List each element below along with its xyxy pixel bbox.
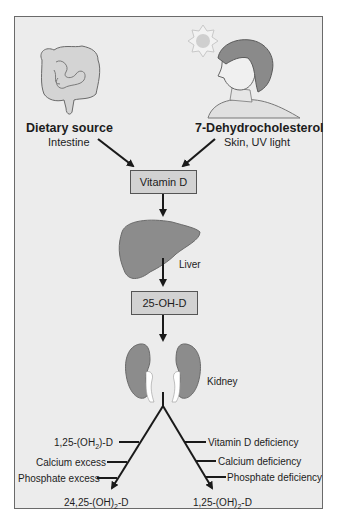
node-vitamin-d: Vitamin D: [130, 170, 197, 194]
factor-phosphate-deficiency: Phosphate deficiency: [227, 471, 322, 484]
factor-calcium-excess: Calcium excess: [36, 456, 106, 469]
factor-text: 1,25-(OH: [54, 437, 95, 448]
factor-phosphate-excess: Phosphate excess: [18, 472, 100, 485]
factor-1-25-oh2-d: 1,25-(OH2)-D: [54, 436, 113, 449]
node-25-oh-d: 25-OH-D: [131, 291, 198, 315]
person-icon: [208, 40, 300, 118]
factor-tail: )-D: [99, 437, 113, 448]
product-1-25-oh2-d: 1,25-(OH)2-D: [193, 496, 252, 509]
source-title-dietary: Dietary source: [26, 122, 113, 135]
intestine-icon: [41, 46, 100, 114]
kidney-label: Kidney: [207, 375, 238, 388]
product-text: 24,25-(OH): [64, 497, 114, 508]
source-title-7-dehydrocholesterol: 7-Dehydrocholesterol: [195, 122, 324, 135]
source-subtitle-skin-uv: Skin, UV light: [224, 136, 290, 149]
source-subtitle-intestine: Intestine: [48, 136, 90, 149]
factor-vitamin-d-deficiency: Vitamin D deficiency: [208, 436, 298, 449]
product-text: 1,25-(OH): [193, 497, 237, 508]
product-24-25-oh2-d: 24,25-(OH)2-D: [64, 496, 128, 509]
product-suffix: -D: [241, 497, 252, 508]
product-suffix: -D: [118, 497, 129, 508]
liver-label: Liver: [179, 258, 201, 271]
factor-calcium-deficiency: Calcium deficiency: [218, 455, 301, 468]
sun-icon: [188, 25, 218, 57]
